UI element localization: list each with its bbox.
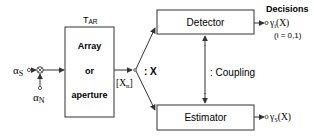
estimator-output-terminal xyxy=(265,115,268,118)
summing-junction-icon xyxy=(37,67,43,73)
to-detector-arrow xyxy=(136,28,155,69)
array-transfer-label: TAR xyxy=(83,15,98,25)
coupling-label: : Coupling xyxy=(210,67,255,78)
noise-terminal xyxy=(38,86,41,89)
array-block-line-1: Array xyxy=(78,41,102,51)
split-label: : X xyxy=(144,66,157,77)
signal-terminal xyxy=(27,68,30,71)
detector-index-note: (i = 0,1) xyxy=(274,31,302,40)
array-block-line-2: or xyxy=(85,66,94,76)
block-diagram: αS αN TAR Array or aperture [Xn] : X Det… xyxy=(0,0,314,139)
detector-output-terminal xyxy=(265,21,268,24)
array-output-label: [Xn] xyxy=(116,78,133,90)
array-block-line-3: aperture xyxy=(71,90,107,100)
detector-label: Detector xyxy=(187,17,225,28)
decisions-heading: Decisions xyxy=(266,4,309,14)
split-node xyxy=(134,69,137,72)
noise-input-label: αN xyxy=(33,91,45,105)
signal-input-label: αS xyxy=(13,64,23,78)
estimator-label: Estimator xyxy=(184,112,227,123)
estimator-output-label: γS(X) xyxy=(269,112,291,123)
detector-output-label: γi(X) xyxy=(269,18,289,29)
